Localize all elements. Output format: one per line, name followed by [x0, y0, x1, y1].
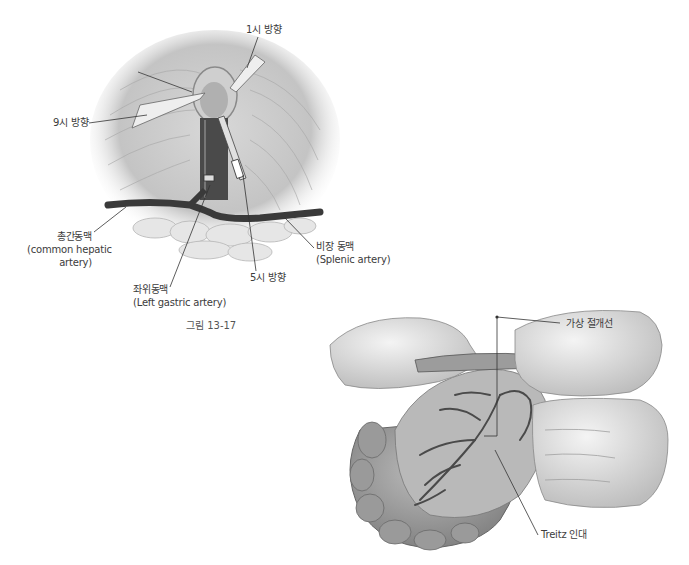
label-left-gastric-artery: 좌위동맥 (Left gastric artery): [133, 283, 226, 309]
label-splenic-en: (Splenic artery): [316, 253, 390, 266]
label-nine-oclock: 9시 방향: [53, 116, 89, 129]
label-common-hepatic-en1: (common hepatic: [27, 243, 92, 256]
label-five-oclock: 5시 방향: [250, 271, 286, 284]
surgical-illustrations: [0, 0, 689, 565]
label-common-hepatic-ko: 총간동맥: [27, 230, 92, 243]
figure-caption: 그림 13-17: [186, 317, 236, 332]
label-left-gastric-ko: 좌위동맥: [133, 283, 226, 296]
bottom-figure-mesentery: [330, 310, 668, 550]
label-common-hepatic-artery: 총간동맥 (common hepatic artery): [27, 230, 92, 269]
label-splenic-artery: 비장 동맥 (Splenic artery): [316, 240, 390, 266]
label-common-hepatic-en2: artery): [27, 256, 92, 269]
label-left-gastric-en: (Left gastric artery): [133, 296, 226, 309]
top-figure-stomach-field: [89, 30, 340, 287]
label-one-oclock: 1시 방향: [246, 23, 282, 36]
label-splenic-ko: 비장 동맥: [316, 240, 390, 253]
label-virtual-incision-line: 가상 절개선: [566, 317, 613, 330]
label-treitz-ligament: Treitz 인대: [541, 528, 587, 541]
